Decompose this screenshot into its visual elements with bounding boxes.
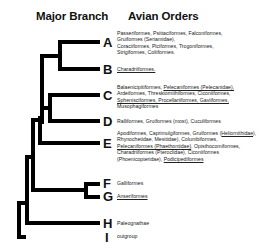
header-avian-orders: Avian Orders: [128, 10, 199, 22]
branch-label-b: B: [103, 63, 112, 76]
branch-label-h: H: [103, 217, 112, 230]
orders-f: Galliformes: [117, 180, 275, 186]
branch-line-h: [25, 221, 100, 225]
branch-line-a: [58, 40, 100, 44]
branch-label-a: A: [103, 36, 112, 49]
branch-line-b: [58, 67, 100, 71]
root-node: [17, 201, 21, 239]
header-major-branch: Major Branch: [36, 10, 108, 22]
branch-line-c: [48, 93, 100, 97]
orders-g: Anseriformes: [117, 193, 275, 199]
branch-line-d: [48, 119, 100, 123]
branch-label-d: D: [103, 115, 112, 128]
orders-e: Apodiformes, Caprimulgiformes, Gruiforme…: [117, 130, 275, 162]
branch-line-e: [38, 141, 100, 145]
node-aves: [25, 155, 29, 225]
branch-line-i: [17, 235, 26, 239]
orders-i: outgroup: [117, 233, 275, 239]
branch-label-c: C: [103, 89, 112, 102]
orders-d: Ralliformes, Gruiformes (most), Cuculifo…: [117, 118, 275, 124]
orders-h: Paleognathae: [117, 220, 275, 226]
branch-label-g: G: [103, 190, 113, 203]
stem-fg: [31, 188, 86, 192]
branch-label-i: I: [105, 231, 109, 244]
branch-label-e: E: [103, 137, 112, 150]
orders-b: Charadriiformes.: [117, 66, 275, 72]
orders-a: Passeriformes, Psittaciformes, Falconifo…: [117, 30, 275, 56]
node-abcd: [40, 54, 44, 124]
orders-c: Balaenicipitiformes, Pelecaniformes (Pel…: [117, 84, 275, 110]
